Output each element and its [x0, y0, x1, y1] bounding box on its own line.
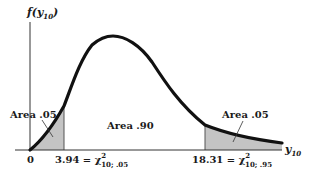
x-axis-label: y10 — [284, 143, 301, 158]
density-curve — [30, 36, 282, 150]
y-axis-label: f(y10) — [26, 6, 58, 21]
tick-label-lower-critical: 3.94 = χ210; .05 — [55, 151, 128, 169]
tick-label-upper-critical: 18.31 = χ210; .95 — [192, 151, 272, 169]
right-area-label: Area .05 — [221, 109, 269, 120]
tick-label-zero: 0 — [27, 154, 34, 165]
center-area-label: Area .90 — [106, 120, 154, 131]
chi-square-density-chart: f(y10) y10 Area .05 Area .90 Area .05 0 … — [0, 0, 313, 174]
left-area-label: Area .05 — [9, 109, 57, 120]
